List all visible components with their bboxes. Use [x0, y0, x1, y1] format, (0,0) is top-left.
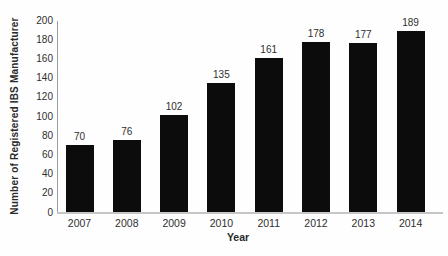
bar [113, 140, 141, 213]
bar-value-label: 102 [154, 101, 194, 112]
x-axis-title: Year [227, 231, 249, 243]
bar-chart: Number of Registered IBS Manufacturer 02… [0, 0, 448, 256]
y-tick-label: 180 [19, 34, 53, 45]
bar [302, 42, 330, 213]
x-tick-label: 2014 [388, 217, 434, 229]
bar [66, 145, 94, 212]
bar-value-label: 76 [107, 126, 147, 137]
x-tick-label: 2010 [198, 217, 244, 229]
x-tick-label: 2012 [293, 217, 339, 229]
y-tick-label: 40 [19, 168, 53, 179]
y-tick-label: 0 [19, 207, 53, 218]
y-axis-line [57, 21, 58, 215]
y-tick-label: 60 [19, 149, 53, 160]
y-tick-label: 20 [19, 187, 53, 198]
bar [207, 83, 235, 213]
bar-value-label: 178 [296, 28, 336, 39]
bar-value-label: 189 [391, 17, 431, 28]
bar [160, 115, 188, 213]
bar-value-label: 135 [201, 69, 241, 80]
bar [255, 58, 283, 213]
y-tick-label: 120 [19, 91, 53, 102]
plot-area: 0204060801001201401601802007020077620081… [0, 0, 448, 256]
bar [397, 31, 425, 212]
x-tick-label: 2011 [246, 217, 292, 229]
bar-value-label: 161 [249, 44, 289, 55]
bar [349, 43, 377, 213]
y-tick-label: 200 [19, 15, 53, 26]
y-tick-label: 140 [19, 72, 53, 83]
x-tick-label: 2009 [151, 217, 197, 229]
bar-value-label: 177 [343, 29, 383, 40]
y-tick-label: 80 [19, 130, 53, 141]
x-tick-label: 2013 [340, 217, 386, 229]
bar-value-label: 70 [60, 131, 100, 142]
x-tick-label: 2007 [57, 217, 103, 229]
y-tick-label: 160 [19, 53, 53, 64]
y-tick-label: 100 [19, 111, 53, 122]
x-tick-label: 2008 [104, 217, 150, 229]
